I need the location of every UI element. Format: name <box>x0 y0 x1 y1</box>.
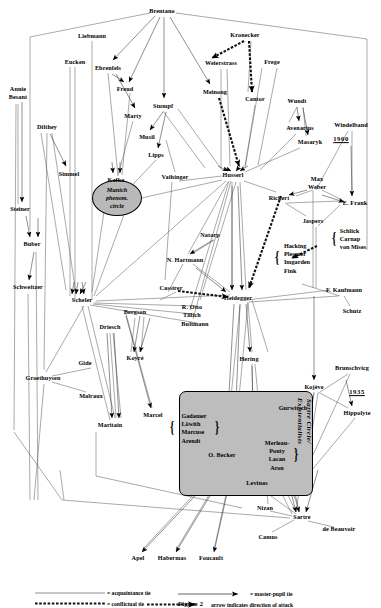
node-avenarius: Avenarius <box>286 124 314 131</box>
group-member: Aron <box>265 463 289 471</box>
node-o-becker: O. Becker <box>208 451 235 458</box>
node-buber: Buber <box>23 240 40 247</box>
network-diagram-figure: Munich phenom. circle Sartre Circle/ Exi… <box>0 0 381 608</box>
node-annie-besant: Annie Besant <box>9 85 27 101</box>
node-heidegger: Heidegger <box>224 294 252 301</box>
node-marcel: Marcel <box>143 411 162 418</box>
group-member: Fink <box>284 266 310 274</box>
legend-row-acquaintance: = acquaintance tie <box>35 590 151 596</box>
node-f-kaufmann: F. Kaufmann <box>326 286 362 293</box>
node-kronecker: Kronecker <box>230 31 259 38</box>
node-brentano: Brentano <box>149 7 174 14</box>
node-kojeve: Kojève <box>304 383 323 390</box>
node-cantor: Cantor <box>245 95 265 102</box>
node-marty: Marty <box>124 112 141 119</box>
node-lipps: Lipps <box>148 151 164 158</box>
node-maritain: Maritain <box>98 421 123 428</box>
node-e-frank: E. Frank <box>343 199 368 206</box>
node-koyre: Koyré <box>127 354 144 361</box>
munich-phenom-circle-node: Munich phenom. circle <box>92 180 142 216</box>
node-ehrenfels: Ehrenfels <box>95 64 121 71</box>
node-freud: Freud <box>117 85 134 92</box>
node-r-otto: R. Otto <box>182 303 202 310</box>
node-vaihinger: Vaihinger <box>162 173 189 180</box>
node-meinong: Meinong <box>203 88 227 95</box>
node-n-hartmann: N. Hartmann <box>167 256 204 263</box>
group-member: Merleau- <box>265 439 289 447</box>
node-wundt: Wundt <box>288 97 307 104</box>
gadamer-group-brace-left: { <box>170 418 174 438</box>
node-cassirer: Cassirer <box>159 284 182 291</box>
year-marker-1900: 1900 <box>333 135 349 143</box>
group-member: Carnap <box>340 235 366 243</box>
group-member: Ponty <box>265 447 289 455</box>
node-liebmann: Liebmann <box>78 32 106 39</box>
node-dilthey: Dilthey <box>37 123 57 130</box>
node-brunschvicg: Brunschvicg <box>335 364 369 371</box>
node-frege: Frege <box>264 58 280 65</box>
legend-label-master-pupil: = master-pupil tie <box>250 591 292 597</box>
group-member: von Mises <box>340 243 366 251</box>
schlick-group: Schlick Carnap von Mises <box>340 227 366 252</box>
node-schutz: Schutz <box>343 307 361 314</box>
node-masaryk: Masaryk <box>298 138 322 145</box>
node-kafka: Kafka <box>107 176 124 183</box>
node-steiner: Steiner <box>10 205 30 212</box>
node-simmel: Simmel <box>59 170 80 177</box>
node-line: Weber <box>308 183 326 191</box>
gadamer-group-brace-right: } <box>215 418 219 438</box>
node-weierstrass: Weierstrass <box>205 59 237 66</box>
hacking-group: Hacking Plessner Imgarden Fink <box>284 242 310 275</box>
legend-swatch-master-pupil <box>178 590 248 598</box>
node-gide: Gide <box>78 359 91 366</box>
node-schweitzer: Schweitzer <box>13 283 43 290</box>
group-member: Marcuse <box>181 428 206 436</box>
node-musil: Musil <box>139 133 155 140</box>
node-apel: Apel <box>132 554 145 561</box>
node-gurwitsch: Gurwitsch <box>279 404 308 411</box>
node-nizan: Nizan <box>257 504 273 511</box>
node-stumpf: Stumpf <box>153 102 173 109</box>
node-scheler: Scheler <box>72 296 92 303</box>
node-foucault: Foucault <box>199 554 223 561</box>
hacking-group-brace: { <box>275 248 279 268</box>
merleau-group-brace: } <box>294 445 298 465</box>
group-member: Plessner <box>284 250 310 258</box>
figure-caption: Figure 2 <box>0 600 381 608</box>
node-sartre: Sartre <box>293 513 310 520</box>
group-member: Lacan <box>265 455 289 463</box>
node-natorp: Natorp <box>200 231 220 238</box>
schlick-group-brace: { <box>332 229 336 249</box>
group-member: Hacking <box>284 242 310 250</box>
munich-phenom-circle-label: Munich phenom. circle <box>106 186 128 209</box>
node-bergson: Bergson <box>124 308 146 315</box>
node-camus: Camus <box>258 533 277 540</box>
year-marker-1935: 1935 <box>349 388 365 396</box>
node-driesch: Driesch <box>100 323 121 330</box>
group-member: Löwith <box>181 420 206 428</box>
group-member: Imgarden <box>284 258 310 266</box>
node-line: Besant <box>9 93 27 101</box>
node-bultmann: Bultmann <box>181 320 208 327</box>
node-max-weber: Max Weber <box>308 175 326 191</box>
node-husserl: Husserl <box>223 171 244 178</box>
node-hippolyte: Hippolyte <box>343 409 370 416</box>
node-malraux: Malraux <box>79 392 103 399</box>
group-member: Schlick <box>340 227 366 235</box>
merleau-ponty-group: Merleau- Ponty Lacan Aron <box>265 439 289 472</box>
node-de-beauvoir: de Beauvoir <box>323 525 356 532</box>
legend-label-acquaintance: = acquaintance tie <box>107 590 151 596</box>
node-eucken: Eucken <box>65 58 86 65</box>
legend-row-master-pupil: = master-pupil tie <box>178 590 292 598</box>
node-line: Annie <box>9 85 27 93</box>
node-hering: Hering <box>239 355 258 362</box>
node-line: Max <box>308 175 326 183</box>
node-tillich: Tillich <box>183 311 201 318</box>
node-rickert: Rickert <box>269 194 290 201</box>
group-member: Gadamer <box>181 412 206 420</box>
gadamer-group: Gadamer Löwith Marcuse Arendt <box>181 412 206 445</box>
node-levinas: Levinas <box>246 479 267 486</box>
node-groethuysen: Groethuysen <box>25 374 60 381</box>
node-habermas: Habermas <box>158 554 186 561</box>
node-jaspers: Jaspers <box>303 217 324 224</box>
